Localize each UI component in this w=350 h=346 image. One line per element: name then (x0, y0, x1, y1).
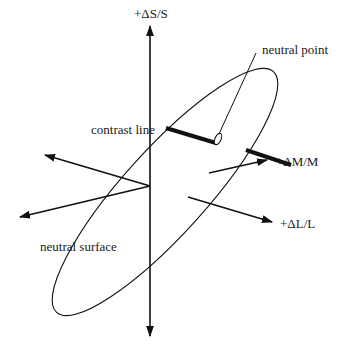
color-space-diagram: +ΔS/S neutral point contrast line +ΔM/M … (0, 0, 350, 346)
contrast-line-label: contrast line (91, 122, 155, 137)
l-axis-negative (20, 186, 150, 217)
l-axis-positive (188, 197, 272, 222)
s-axis-label: +ΔS/S (134, 6, 168, 21)
neutral-point-label: neutral point (262, 42, 328, 57)
neutral-surface-ellipse (25, 44, 304, 341)
m-axis-negative (45, 155, 150, 186)
neutral-point-marker (213, 132, 224, 145)
neutral-point-leader (219, 53, 256, 134)
m-axis-label: +ΔM/M (276, 154, 319, 169)
neutral-surface-label: neutral surface (40, 239, 117, 254)
contrast-line (166, 128, 216, 143)
l-axis-label: +ΔL/L (280, 216, 315, 231)
m-axis-positive (209, 160, 267, 173)
